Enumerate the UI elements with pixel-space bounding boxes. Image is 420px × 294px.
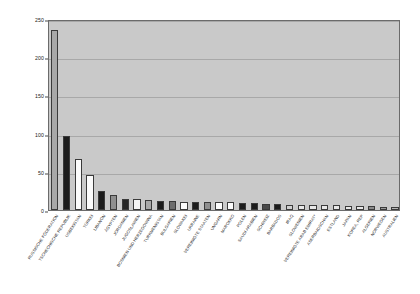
bar [274, 204, 281, 210]
bar [133, 199, 140, 210]
bar [98, 191, 105, 210]
bar [145, 200, 152, 210]
bar [192, 202, 199, 210]
bar [356, 206, 363, 210]
y-axis-tick-label: 100 [35, 133, 44, 138]
y-axis-tick-label: 50 [38, 171, 44, 176]
bar [391, 207, 398, 210]
bar [251, 203, 258, 210]
y-axis-tick-label: 200 [35, 57, 44, 62]
bar [321, 205, 328, 210]
bar [110, 195, 117, 210]
bar [345, 206, 352, 210]
plot-area [48, 20, 400, 211]
chart-figure: 050100150200250 RUSSISCHE FÖDERATIONTSCH… [0, 0, 420, 294]
bar [380, 207, 387, 210]
bar [169, 201, 176, 210]
y-axis-tick-label: 150 [35, 95, 44, 100]
y-axis-tick-label: 250 [35, 18, 44, 23]
bar [157, 201, 164, 210]
bar [298, 205, 305, 210]
x-axis-tick-labels: RUSSISCHE FÖDERATIONTSCHECHISCHE REPUBLI… [48, 212, 400, 294]
bar [180, 202, 187, 210]
bar [204, 202, 211, 210]
x-axis-tick-label: IRAQ [285, 214, 294, 225]
bar [333, 205, 340, 210]
bar [309, 205, 316, 210]
bar [286, 205, 293, 210]
bar [262, 204, 269, 210]
bar [63, 136, 70, 210]
bar [75, 159, 82, 210]
bar [86, 175, 93, 210]
bar [215, 202, 222, 210]
bar [368, 206, 375, 210]
bar [122, 199, 129, 210]
y-axis: 050100150200250 [0, 20, 48, 212]
bar [227, 202, 234, 210]
y-axis-tick-label: 0 [41, 209, 44, 214]
bar [51, 30, 58, 210]
bar-series [49, 21, 399, 210]
bar [239, 203, 246, 210]
